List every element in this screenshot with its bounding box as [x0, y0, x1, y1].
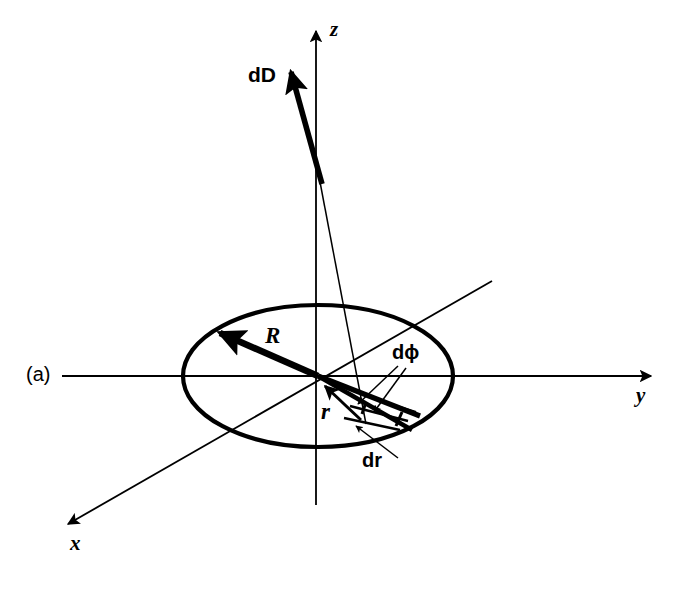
vector-label-dD: dD	[248, 64, 276, 85]
diagram-canvas	[0, 0, 687, 591]
panel-label: (a)	[26, 364, 50, 384]
axis-label-z: z	[330, 19, 338, 40]
annotation-label-dphi: dϕ	[392, 342, 419, 362]
area-element-wedge	[318, 376, 420, 430]
vector-label-r: r	[321, 400, 330, 423]
axis-line-x	[68, 281, 492, 524]
annotation-label-dr: dr	[362, 450, 382, 470]
vector-label-R: R	[265, 324, 280, 347]
axis-label-y: y	[636, 385, 645, 406]
vector-dD	[291, 72, 322, 184]
axis-label-x: x	[70, 533, 81, 554]
axis-group	[62, 31, 651, 524]
vector-label-dD-text: dD	[248, 63, 276, 86]
figure-container: z y x dD R r dϕ dr (a)	[0, 0, 687, 591]
